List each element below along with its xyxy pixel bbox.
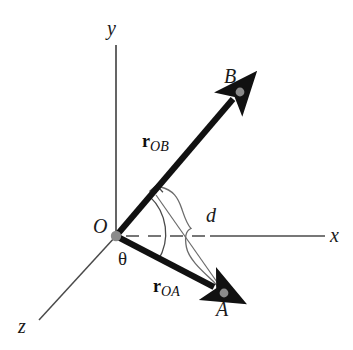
point-label-b: B (224, 66, 236, 86)
vectors-group (116, 99, 233, 287)
distance-label-d: d (206, 205, 216, 225)
vector-ob-symbol: r (142, 131, 150, 151)
axis-label-y: y (107, 18, 116, 38)
vector-label-r-oa: rOA (153, 277, 180, 299)
origin-label-o: O (93, 216, 107, 236)
point-a-dot (220, 289, 229, 298)
axis-label-x: x (330, 225, 339, 245)
axes-group (39, 45, 325, 320)
angle-label-theta: θ (118, 249, 127, 268)
axis-label-z: z (18, 316, 26, 336)
vector-ob-subscript: OB (150, 139, 169, 154)
point-label-a: A (216, 299, 228, 319)
vector-diagram-figure: y x z O B A d θ rOB rOA (0, 0, 353, 350)
vector-label-r-ob: rOB (142, 132, 169, 154)
point-b-dot (236, 88, 245, 97)
z-axis-line (39, 236, 116, 320)
vector-oa-symbol: r (153, 276, 161, 296)
origin-dot (111, 231, 121, 241)
vector-oa-subscript: OA (161, 284, 180, 299)
